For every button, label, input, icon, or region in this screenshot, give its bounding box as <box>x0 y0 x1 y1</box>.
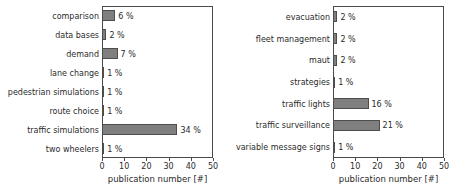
xtick-label-left-4: 40 <box>186 162 196 171</box>
bar-chart-left: comparison6 %data bases2 %demand7 %lane … <box>0 0 231 190</box>
plot-area-left <box>102 6 213 158</box>
bar-left-7 <box>102 143 104 154</box>
category-label-right-4: traffic lights <box>282 99 330 108</box>
xtick-label-left-3: 30 <box>164 162 174 171</box>
category-label-left-1: data bases <box>55 30 99 39</box>
xtick-left-3 <box>169 158 170 161</box>
value-label-left-6: 34 % <box>180 125 200 134</box>
xtick-right-4 <box>422 158 423 161</box>
xtick-label-right-3: 30 <box>395 162 405 171</box>
category-label-left-3: lane change <box>50 68 99 77</box>
bar-right-6 <box>333 142 335 153</box>
xtick-right-3 <box>400 158 401 161</box>
value-label-left-7: 1 % <box>107 144 122 153</box>
value-label-left-3: 1 % <box>107 68 122 77</box>
xtick-label-right-4: 40 <box>417 162 427 171</box>
value-label-right-3: 1 % <box>338 78 353 87</box>
bar-right-3 <box>333 77 335 88</box>
xtick-label-right-5: 50 <box>439 162 449 171</box>
xtick-right-2 <box>377 158 378 161</box>
xtick-label-left-1: 10 <box>119 162 129 171</box>
xtick-right-5 <box>444 158 445 161</box>
xtick-left-2 <box>146 158 147 161</box>
bar-right-5 <box>333 120 380 131</box>
value-label-left-5: 1 % <box>107 106 122 115</box>
category-label-left-5: route choice <box>49 106 99 115</box>
category-label-left-2: demand <box>66 49 99 58</box>
bar-left-3 <box>102 67 104 78</box>
figure-canvas: comparison6 %data bases2 %demand7 %lane … <box>0 0 462 190</box>
value-label-left-0: 6 % <box>118 11 133 20</box>
xtick-left-4 <box>191 158 192 161</box>
category-label-right-5: traffic surveillance <box>256 121 330 130</box>
xtick-left-1 <box>124 158 125 161</box>
bar-left-1 <box>102 29 106 40</box>
category-label-left-6: traffic simulations <box>27 125 99 134</box>
bar-left-2 <box>102 48 118 59</box>
bar-right-0 <box>333 11 337 22</box>
bar-chart-right: evacuation2 %fleet management2 %maut2 %s… <box>231 0 462 190</box>
xtick-right-0 <box>333 158 334 161</box>
category-label-right-1: fleet management <box>256 34 330 43</box>
category-label-right-6: variable message signs <box>236 143 330 152</box>
value-label-left-4: 1 % <box>107 87 122 96</box>
bar-left-6 <box>102 124 177 135</box>
xaxis-title-left: publication number [#] <box>108 174 207 184</box>
xtick-label-right-1: 10 <box>350 162 360 171</box>
xtick-label-left-2: 20 <box>141 162 151 171</box>
bar-left-4 <box>102 86 104 97</box>
value-label-right-0: 2 % <box>340 12 355 21</box>
xtick-left-0 <box>102 158 103 161</box>
bar-left-5 <box>102 105 104 116</box>
category-label-right-2: maut <box>309 56 330 65</box>
category-label-right-3: strategies <box>290 78 330 87</box>
category-label-left-0: comparison <box>52 11 99 20</box>
value-label-right-5: 21 % <box>383 121 403 130</box>
value-label-left-2: 7 % <box>121 49 136 58</box>
xtick-right-1 <box>355 158 356 161</box>
xtick-label-right-2: 20 <box>372 162 382 171</box>
bar-right-4 <box>333 98 369 109</box>
xtick-label-left-5: 50 <box>208 162 218 171</box>
bar-right-1 <box>333 33 337 44</box>
xtick-left-5 <box>213 158 214 161</box>
value-label-right-6: 1 % <box>338 143 353 152</box>
bar-left-0 <box>102 10 115 21</box>
category-label-left-4: pedestrian simulations <box>8 87 99 96</box>
value-label-right-1: 2 % <box>340 34 355 43</box>
bar-right-2 <box>333 55 337 66</box>
value-label-right-2: 2 % <box>340 56 355 65</box>
value-label-right-4: 16 % <box>372 99 392 108</box>
xtick-label-right-0: 0 <box>330 162 335 171</box>
category-label-right-0: evacuation <box>286 12 330 21</box>
xaxis-title-right: publication number [#] <box>339 174 438 184</box>
xtick-label-left-0: 0 <box>99 162 104 171</box>
category-label-left-7: two wheelers <box>46 144 99 153</box>
value-label-left-1: 2 % <box>109 30 124 39</box>
